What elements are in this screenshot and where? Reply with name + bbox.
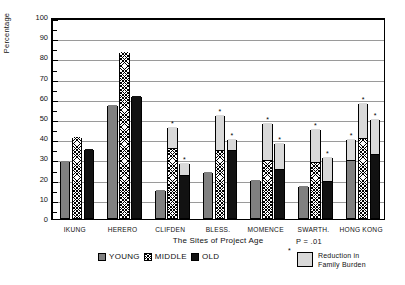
bar-segment-base — [323, 182, 332, 218]
bar-segment-base — [73, 137, 82, 218]
bar-segment-base — [263, 161, 272, 218]
y-tick-label: 90 — [22, 34, 48, 42]
x-tick-label: HONG KONG — [337, 226, 385, 233]
bar-young — [298, 187, 309, 219]
significance-star-icon: * — [266, 118, 269, 122]
series-legend: YOUNGMIDDLEOLD — [98, 252, 219, 261]
legend-label: OLD — [202, 252, 219, 261]
significance-star-icon: * — [362, 98, 365, 102]
significance-star-icon: * — [374, 114, 377, 118]
legend-item-young: YOUNG — [98, 252, 140, 261]
bar-young — [155, 191, 166, 219]
x-tick-label: SWARTH. — [290, 226, 338, 233]
legend-label: MIDDLE — [155, 252, 187, 261]
bar-young — [250, 181, 261, 219]
significance-star-icon: * — [183, 158, 186, 162]
bar-segment-reduction — [168, 127, 177, 149]
x-tick-label: IKUNG — [51, 226, 99, 233]
significance-star-icon: * — [171, 122, 174, 126]
bar-segment-reduction — [311, 129, 320, 163]
bar-old: * — [370, 120, 381, 219]
bar-middle — [119, 53, 130, 219]
bar-segment-base — [228, 151, 237, 218]
significance-star-icon: * — [350, 134, 353, 138]
bar-group — [53, 20, 101, 219]
y-tick-label: 20 — [22, 176, 48, 184]
y-tick-label: 80 — [22, 54, 48, 62]
bar-group — [101, 20, 149, 219]
y-tick-label: 0 — [22, 216, 48, 224]
bar-young — [107, 106, 118, 219]
bar-segment-reduction — [359, 103, 368, 139]
bar-old: * — [322, 158, 333, 219]
bar-segment-base — [108, 105, 117, 218]
x-axis-title: The Sites of Project Age — [51, 236, 385, 245]
bar-segment-base — [347, 161, 356, 218]
bar-old — [131, 97, 142, 219]
bar-segment-base — [311, 163, 320, 218]
bar-group: ** — [292, 20, 340, 219]
y-tick-label: 40 — [22, 135, 48, 143]
bar-young — [203, 173, 214, 219]
y-axis-tick-labels: 1009080706050403020100 — [20, 0, 48, 285]
x-tick-label: HERERO — [99, 226, 147, 233]
bar-middle: * — [262, 124, 273, 219]
legend-item-middle: MIDDLE — [144, 252, 187, 261]
bar-segment-base — [132, 96, 141, 218]
bar-segment-base — [371, 155, 380, 218]
bar-segment-reduction — [180, 163, 189, 175]
y-tick-label: 30 — [22, 155, 48, 163]
reduction-legend: Reduction in Family Burden — [297, 252, 366, 269]
plot-area: *********** — [51, 18, 385, 220]
bar-segment-base — [85, 149, 94, 218]
bar-old — [84, 150, 95, 219]
bar-segment-base — [299, 186, 308, 218]
reduction-star-icon: * — [288, 247, 291, 254]
bar-old: * — [274, 144, 285, 219]
x-tick-label: MOMENCE — [242, 226, 290, 233]
reduction-legend-line1: Reduction in — [318, 252, 359, 259]
bar-segment-reduction — [347, 139, 356, 161]
y-tick-label: 100 — [22, 14, 48, 22]
bar-group: ** — [148, 20, 196, 219]
y-tick-label: 70 — [22, 75, 48, 83]
bar-segment-base — [61, 161, 70, 218]
bar-old: * — [179, 164, 190, 219]
bar-group: ** — [196, 20, 244, 219]
significance-star-icon: * — [326, 152, 329, 156]
bar-segment-reduction — [216, 115, 225, 151]
bar-segment-base — [168, 149, 177, 218]
bar-middle: * — [358, 104, 369, 219]
bar-segment-reduction — [263, 123, 272, 161]
significance-star-icon: * — [314, 124, 317, 128]
bar-middle: * — [310, 130, 321, 219]
legend-swatch-icon — [191, 253, 199, 261]
significance-star-icon: * — [219, 110, 222, 114]
bar-group: *** — [339, 20, 387, 219]
bar-segment-base — [359, 139, 368, 218]
reduction-swatch-icon — [297, 252, 313, 267]
legend-swatch-icon — [144, 253, 152, 261]
bar-segment-base — [180, 176, 189, 218]
reduction-legend-line2: Family Burden — [318, 261, 366, 268]
bar-group: ** — [244, 20, 292, 219]
significance-star-icon: * — [231, 134, 234, 138]
legend-item-old: OLD — [191, 252, 219, 261]
bar-segment-base — [156, 190, 165, 218]
bar-segment-reduction — [323, 157, 332, 181]
bar-chart-figure: Percentage 1009080706050403020100 ******… — [0, 0, 405, 285]
bar-segment-reduction — [228, 139, 237, 151]
reduction-legend-label: Reduction in Family Burden — [318, 252, 366, 269]
y-tick-label: 50 — [22, 115, 48, 123]
bar-old: * — [227, 140, 238, 219]
bar-middle — [72, 138, 83, 219]
bar-segment-base — [120, 52, 129, 218]
x-tick-label: BLESS. — [194, 226, 242, 233]
bar-young — [60, 162, 71, 219]
y-axis-title: Percentage — [2, 0, 11, 78]
bar-middle: * — [215, 116, 226, 219]
bar-young: * — [346, 140, 357, 219]
y-tick-label: 10 — [22, 196, 48, 204]
p-value-annotation: P = .01 — [296, 237, 322, 246]
y-tick-label: 60 — [22, 95, 48, 103]
